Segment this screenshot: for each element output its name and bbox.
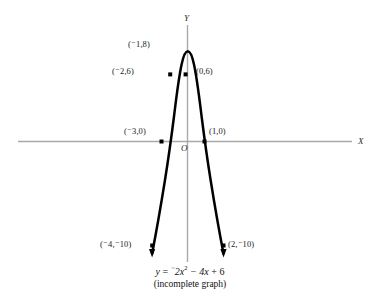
origin-label: O: [181, 143, 188, 153]
equation-lhs: y: [156, 266, 160, 277]
point-label-1-0: (1,0): [209, 126, 226, 136]
equation-term3: + 6: [211, 266, 224, 277]
point-label-0-6: (0,6): [196, 66, 213, 76]
figure-caption: (incomplete graph): [0, 279, 380, 289]
point-marker-minus3-0: [160, 140, 164, 144]
point-marker-minus2-6: [168, 72, 172, 76]
point-marker-minus4-minus10: [150, 244, 154, 248]
equation-term2: − 4x: [190, 266, 209, 277]
point-label-vertex: (⁻1,8): [128, 39, 150, 49]
point-marker-1-0: [203, 140, 207, 144]
point-label-minus4-minus10: (⁻4,⁻10): [100, 239, 131, 249]
curve-arrow-left: [149, 249, 155, 258]
y-axis-label: Y: [184, 13, 189, 23]
point-marker-2-minus10: [222, 244, 226, 248]
point-label-2-minus10: (2,⁻10): [228, 239, 254, 249]
equation-term1: 2x: [175, 266, 184, 277]
curve-arrow-right: [220, 249, 226, 258]
equation-label: y = ⁻2x2 − 4x + 6: [0, 264, 380, 277]
equation-term1-exponent: 2: [184, 264, 187, 271]
equation-equals: =: [163, 266, 169, 277]
x-axis-label: X: [358, 136, 364, 146]
point-label-minus2-6: (⁻2,6): [112, 66, 134, 76]
point-label-minus3-0: (⁻3,0): [124, 126, 146, 136]
point-marker-0-6: [184, 72, 188, 76]
figure-canvas: X Y O (⁻1,8) (⁻2,6) (0,6) (⁻3,0) (1,0) (…: [0, 0, 380, 304]
parabola-plot: [0, 0, 380, 304]
